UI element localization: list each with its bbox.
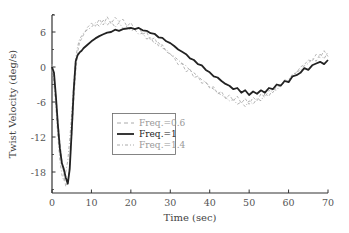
y-tick-label: -6: [37, 97, 46, 108]
x-axis-title: Time (sec): [164, 212, 217, 223]
y-tick-label: 0: [40, 62, 46, 73]
legend: Freq.=0.6 Freq.=1 Freq.=1.4: [113, 114, 186, 155]
chart: 60-6-12-18 010203040506070 Time (sec) Tw…: [0, 0, 349, 233]
x-tick-label: 50: [243, 197, 255, 208]
x-tick-label: 40: [204, 197, 216, 208]
y-axis-title: Twist Velocity (deg/s): [7, 50, 18, 159]
x-tick-label: 60: [283, 197, 295, 208]
y-tick-label: 6: [40, 27, 46, 38]
series-line-freq-1-4: [52, 20, 328, 181]
x-tick-label: 30: [164, 197, 176, 208]
y-axis: [52, 15, 55, 193]
series-line-freq-0-6: [52, 17, 328, 187]
legend-label: Freq.=1.4: [139, 140, 186, 150]
legend-label: Freq.=1: [139, 129, 177, 139]
x-tick-label: 70: [322, 197, 334, 208]
series-line-freq-1: [52, 28, 328, 184]
x-tick-label: 20: [125, 197, 137, 208]
y-tick-label: -12: [31, 132, 46, 143]
plot-area: [52, 17, 328, 187]
x-tick-label: 10: [85, 197, 97, 208]
legend-label: Freq.=0.6: [139, 118, 186, 128]
x-tick-label: 0: [49, 197, 55, 208]
y-tick-label: -18: [31, 167, 46, 178]
x-ticks: 010203040506070: [49, 190, 334, 209]
